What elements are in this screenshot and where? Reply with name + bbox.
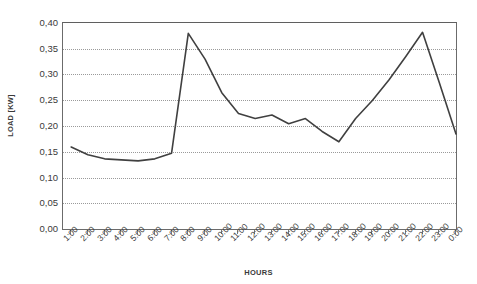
y-tick-label: 0,05 — [18, 197, 58, 208]
y-tick-label: 0,15 — [18, 145, 58, 156]
y-axis-title-label: LOAD [KW] — [6, 94, 15, 137]
load-series-line — [63, 23, 456, 230]
line-chart: LOAD [KW] 0,400,350,300,250,200,150,100,… — [0, 0, 477, 284]
y-tick-label: 0,40 — [18, 16, 58, 27]
plot-area — [62, 22, 457, 231]
x-axis-title: HOURS — [62, 268, 455, 277]
x-axis-tick-labels: 1:002:003:004:005:006:007:008:009:0010:0… — [0, 232, 477, 272]
y-tick-label: 0,35 — [18, 42, 58, 53]
y-tick-label: 0,20 — [18, 120, 58, 131]
y-tick-label: 0,10 — [18, 171, 58, 182]
y-axis-title: LOAD [KW] — [2, 0, 18, 230]
y-tick-label: 0,25 — [18, 94, 58, 105]
y-tick-label: 0,30 — [18, 68, 58, 79]
